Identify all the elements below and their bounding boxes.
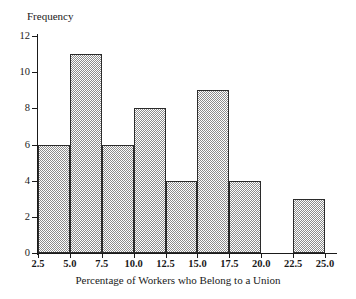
y-tick-label: 4 — [4, 176, 30, 186]
x-axis-title: Percentage of Workers who Belong to a Un… — [0, 274, 356, 287]
y-tick-label: 8 — [4, 103, 30, 113]
histogram-bar — [134, 108, 166, 253]
histogram-bar — [38, 145, 70, 254]
histogram-bar — [197, 90, 229, 253]
y-tick-label: 12 — [4, 31, 30, 41]
histogram-bar — [70, 54, 102, 253]
histogram-bar — [102, 145, 134, 254]
histogram-bar — [166, 181, 198, 253]
y-tick-label: 10 — [4, 67, 30, 77]
x-tick-label: 25.0 — [305, 258, 345, 270]
y-axis-title: Frequency — [27, 10, 73, 23]
histogram-bar — [293, 199, 325, 253]
y-tick-label: 0 — [4, 248, 30, 258]
histogram-figure: Frequency 024681012 2.55.07.510.012.515.… — [0, 0, 356, 299]
histogram-bar — [229, 181, 261, 253]
x-axis-line — [37, 253, 337, 254]
plot-area — [38, 36, 325, 253]
y-tick-label: 6 — [4, 140, 30, 150]
y-tick-label: 2 — [4, 212, 30, 222]
